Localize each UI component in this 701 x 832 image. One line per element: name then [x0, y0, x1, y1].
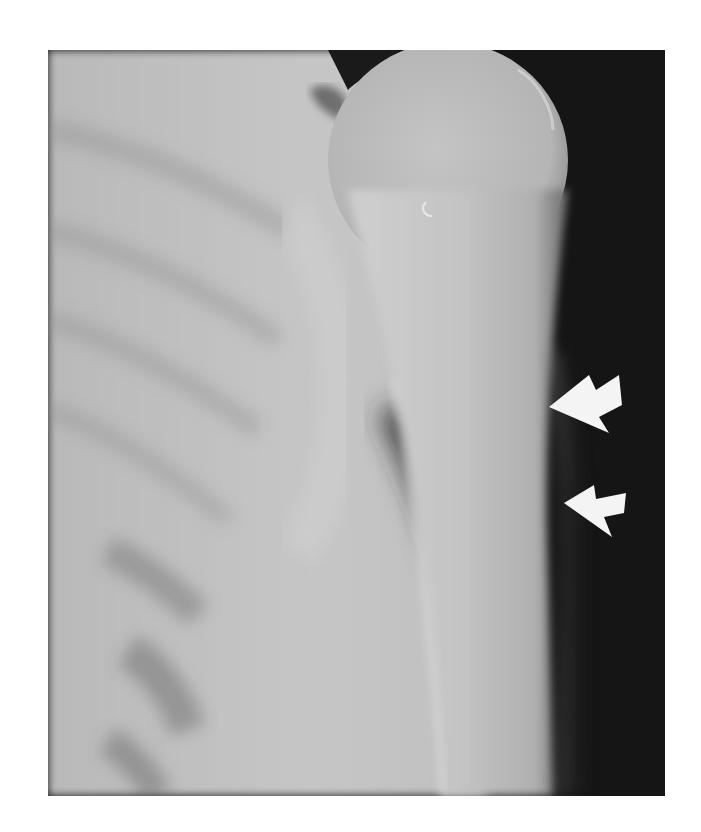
radiograph-image — [48, 50, 665, 796]
xray-illustration — [48, 50, 665, 796]
